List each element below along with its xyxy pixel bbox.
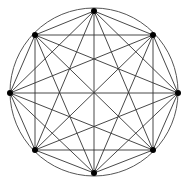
graph-canvas <box>0 0 187 182</box>
vertex-n1 <box>150 32 156 38</box>
vertex-n5 <box>32 147 38 153</box>
vertex-n6 <box>7 90 13 96</box>
vertex-n7 <box>32 32 38 38</box>
edge-n3-n4 <box>94 150 153 173</box>
edge-n4-n5 <box>35 150 94 173</box>
complete-graph-diagram <box>0 0 187 182</box>
vertex-n3 <box>150 147 156 153</box>
vertex-n4 <box>91 170 97 176</box>
vertex-n2 <box>175 90 181 96</box>
vertex-n0 <box>91 8 97 14</box>
